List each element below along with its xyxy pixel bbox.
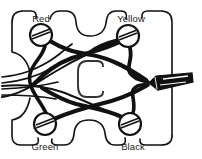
terminal-label-yellow: Yellow <box>117 13 145 24</box>
left-exit-wire-4 <box>2 95 56 99</box>
right-edge-connector[interactable] <box>149 73 193 90</box>
terminal-label-green: Green <box>32 141 59 152</box>
terminal-label-red: Red <box>32 13 50 24</box>
terminal-yellow[interactable] <box>117 25 139 47</box>
center-c-shape <box>78 61 103 97</box>
terminal-black[interactable] <box>119 113 141 135</box>
wiring-harness-svg: Red Yellow Green Black <box>0 0 202 159</box>
terminal-red[interactable] <box>30 24 52 46</box>
terminal-green[interactable] <box>34 113 56 135</box>
diagram-canvas: Red Yellow Green Black <box>0 0 202 159</box>
terminal-label-black: Black <box>121 141 145 152</box>
